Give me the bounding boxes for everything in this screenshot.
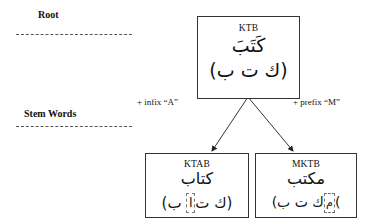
prefix-operation-label: + prefix “M”	[293, 97, 340, 107]
root-arabic-word: كَتَبَ	[198, 36, 299, 55]
stem-letters: (ك تا ب)	[146, 193, 248, 213]
letters-after-mark: ب)	[162, 194, 187, 212]
stem-node-ktab: KTAB كتاب (ك تا ب)	[145, 153, 249, 218]
root-node: KTB كَتَبَ (ك ت ب)	[197, 16, 300, 99]
letters-before-mark: (	[335, 194, 340, 210]
infix-operation-label: + infix “A”	[137, 97, 178, 107]
root-letters: (ك ت ب)	[198, 61, 299, 80]
stem-arabic-word: مكتب	[256, 171, 356, 187]
infix-highlight: ا	[186, 193, 195, 213]
stem-node-mktb: MKTB مكتب ك ت ب)م(	[255, 153, 357, 218]
prefix-highlight: م	[324, 193, 335, 213]
stem-letters: ك ت ب)م(	[256, 193, 356, 213]
letters-before-mark: (ك ت	[195, 194, 232, 212]
letters-after-mark: ك ت ب)	[272, 194, 324, 210]
stem-arabic-word: كتاب	[146, 171, 248, 187]
root-transliteration: KTB	[198, 23, 299, 34]
